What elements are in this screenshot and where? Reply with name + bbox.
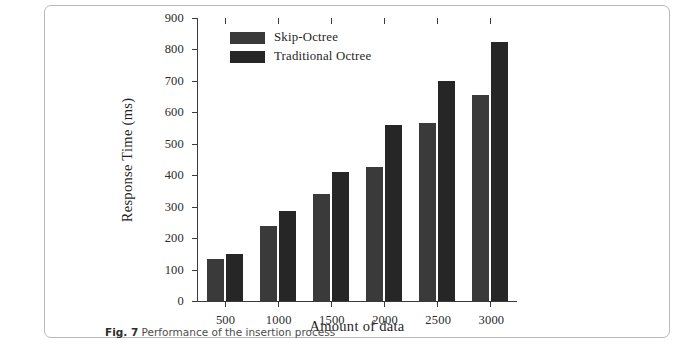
y-tick: 300 [192,207,198,208]
legend-label-traditional-octree: Traditional Octree [274,49,371,64]
top-tick [331,18,332,24]
y-tick-label: 0 [178,294,184,309]
top-tick [490,18,491,24]
y-tick: 800 [192,49,198,50]
y-tick-label: 500 [165,137,184,152]
bar-skip-octree-3000 [472,95,489,301]
x-tick: 1000 [278,301,279,307]
top-tick [384,18,385,24]
chart-plot: Response Time (ms) Amount of data 010020… [45,6,671,339]
y-tick: 600 [192,112,198,113]
bar-traditional-octree-1500 [332,172,349,301]
bar-skip-octree-1500 [313,194,330,301]
legend-label-skip-octree: Skip-Octree [274,30,338,45]
y-tick-label: 900 [165,11,184,26]
figure-number: Fig. 7 [105,326,138,338]
x-tick: 500 [225,301,226,307]
x-tick-label: 2000 [372,313,398,328]
bar-traditional-octree-500 [226,254,243,301]
bar-skip-octree-500 [207,259,224,301]
x-tick: 1500 [331,301,332,307]
x-tick: 3000 [490,301,491,307]
bar-skip-octree-2500 [419,123,436,301]
y-tick: 100 [192,270,198,271]
bar-traditional-octree-2000 [385,125,402,301]
bar-traditional-octree-2500 [438,81,455,301]
bar-skip-octree-2000 [366,167,383,301]
y-tick-label: 200 [165,231,184,246]
y-tick: 900 [192,18,198,19]
x-tick: 2000 [384,301,385,307]
chart-legend: Skip-Octree Traditional Octree [230,28,380,66]
y-tick: 0 [192,301,198,302]
legend-swatch-traditional-octree [230,51,265,63]
bar-traditional-octree-1000 [279,211,296,301]
y-tick-label: 600 [165,106,184,121]
legend-item-traditional-octree: Traditional Octree [230,47,380,66]
x-tick-label: 3000 [479,313,505,328]
figure-caption: Fig. 7 Performance of the insertion proc… [105,326,335,338]
top-tick [437,18,438,24]
x-tick-label: 2500 [425,313,451,328]
top-tick [278,18,279,24]
top-tick [225,18,226,24]
y-tick-label: 800 [165,43,184,58]
chart-axes: 0100200300400500600700800900 50010001500… [197,18,517,302]
y-tick: 200 [192,238,198,239]
legend-swatch-skip-octree [230,32,265,44]
y-tick: 700 [192,81,198,82]
bar-traditional-octree-3000 [491,42,508,301]
legend-item-skip-octree: Skip-Octree [230,28,380,47]
figure-caption-text: Performance of the insertion process [142,326,336,338]
figure-card: Response Time (ms) Amount of data 010020… [44,5,670,338]
y-tick-label: 400 [165,168,184,183]
y-axis-label: Response Time (ms) [119,98,136,223]
x-tick: 2500 [437,301,438,307]
y-tick: 400 [192,175,198,176]
y-tick: 500 [192,144,198,145]
y-tick-label: 700 [165,74,184,89]
bar-skip-octree-1000 [260,226,277,301]
y-tick-label: 300 [165,200,184,215]
y-tick-label: 100 [165,263,184,278]
